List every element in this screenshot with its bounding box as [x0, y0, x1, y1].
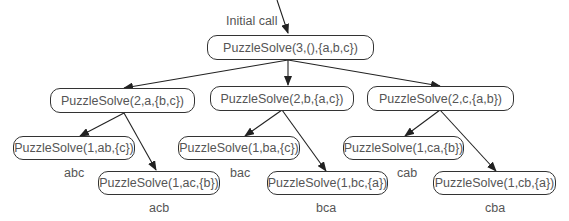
leaf-node-ba: PuzzleSolve(1,ba,{c})	[178, 136, 300, 160]
edge-b-ba	[245, 110, 282, 136]
initial-call-label: Initial call	[226, 14, 277, 28]
edge-a-ab	[80, 113, 124, 136]
edge-root-a	[124, 60, 288, 88]
result-cba: cba	[485, 201, 505, 215]
edge-c-ca	[405, 110, 440, 136]
level2-node-b: PuzzleSolve(2,b,{a,c})	[210, 86, 354, 111]
result-acb: acb	[149, 201, 169, 215]
result-cab: cab	[397, 166, 417, 180]
leaf-node-ca: PuzzleSolve(1,ca,{b})	[343, 136, 464, 160]
leaf-node-cb: PuzzleSolve(1,cb,{a})	[433, 171, 556, 195]
leaf-node-bc: PuzzleSolve(1,bc,{a})	[267, 171, 388, 195]
level2-node-a: PuzzleSolve(2,a,{b,c})	[50, 88, 195, 113]
level2-node-c: PuzzleSolve(2,c,{a,b})	[367, 86, 514, 111]
leaf-node-ab: PuzzleSolve(1,ab,{c})	[13, 136, 135, 160]
result-bca: bca	[316, 201, 336, 215]
result-bac: bac	[230, 166, 250, 180]
initial-call-arrow	[277, 0, 288, 33]
leaf-node-ac: PuzzleSolve(1,ac,{b})	[98, 171, 220, 195]
edge-root-c	[288, 60, 440, 86]
result-abc: abc	[64, 166, 84, 180]
root-node: PuzzleSolve(3,(),{a,b,c})	[207, 35, 374, 60]
